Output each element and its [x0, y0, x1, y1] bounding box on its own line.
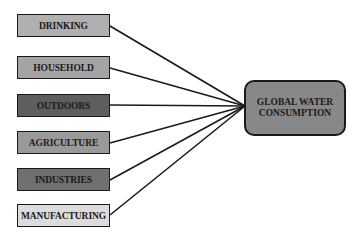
source-node-household: HOUSEHOLD: [17, 56, 110, 79]
connector-line: [110, 105, 245, 106]
target-label-line1: GLOBAL WATER: [257, 97, 333, 108]
source-label: OUTDOORS: [37, 101, 91, 111]
source-node-drinking: DRINKING: [17, 14, 110, 37]
source-node-agriculture: AGRICULTURE: [17, 131, 110, 154]
source-node-industries: INDUSTRIES: [17, 168, 110, 191]
target-label-line2: CONSUMPTION: [257, 108, 333, 119]
connector-line: [110, 68, 245, 106]
source-label: DRINKING: [39, 21, 88, 31]
connector-line: [110, 106, 245, 143]
connector-line: [110, 26, 245, 106]
source-label: INDUSTRIES: [35, 175, 92, 185]
source-node-outdoors: OUTDOORS: [17, 94, 110, 117]
global-water-consumption-node: GLOBAL WATER CONSUMPTION: [244, 80, 346, 136]
connector-line: [110, 106, 245, 180]
source-label: HOUSEHOLD: [33, 63, 93, 73]
source-label: MANUFACTURING: [21, 211, 106, 221]
source-node-manufacturing: MANUFACTURING: [17, 204, 110, 227]
source-label: AGRICULTURE: [29, 138, 98, 148]
connector-line: [110, 106, 245, 215]
